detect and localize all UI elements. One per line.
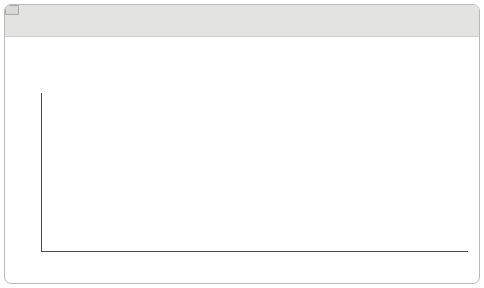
- stacked-area-series: [42, 93, 468, 251]
- callout-box: [5, 5, 19, 15]
- legend-row-2: [17, 74, 467, 86]
- figure-title-bar: [5, 5, 479, 37]
- figure-card: [4, 4, 480, 284]
- legend-row-1: [17, 60, 467, 72]
- stacked-area-clip: [42, 93, 468, 251]
- chart-legend: [17, 60, 467, 88]
- plot-area: [41, 93, 468, 252]
